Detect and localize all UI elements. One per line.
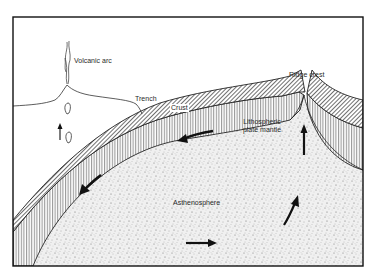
magma-droplet-icon bbox=[66, 132, 72, 143]
magma-droplet-icon bbox=[65, 103, 71, 114]
label-volcanic-arc: Volcanic arc bbox=[74, 57, 112, 65]
land-surface bbox=[13, 85, 142, 114]
volcanic-plume-icon bbox=[65, 41, 70, 84]
label-crust: Crust bbox=[170, 104, 189, 112]
arrow-up-magma-icon bbox=[58, 123, 63, 140]
label-asthenosphere: Asthenosphere bbox=[173, 199, 220, 207]
label-plate-mantle-line2: plate mantle bbox=[232, 126, 292, 134]
label-lithospheric-plate-mantle: Lithospheric plate mantle bbox=[232, 118, 292, 134]
label-trench: Trench bbox=[135, 95, 157, 103]
plate-tectonics-diagram bbox=[0, 0, 373, 272]
label-lithospheric-line1: Lithospheric bbox=[232, 118, 292, 126]
label-ridge-crest: Ridge crest bbox=[289, 71, 324, 79]
